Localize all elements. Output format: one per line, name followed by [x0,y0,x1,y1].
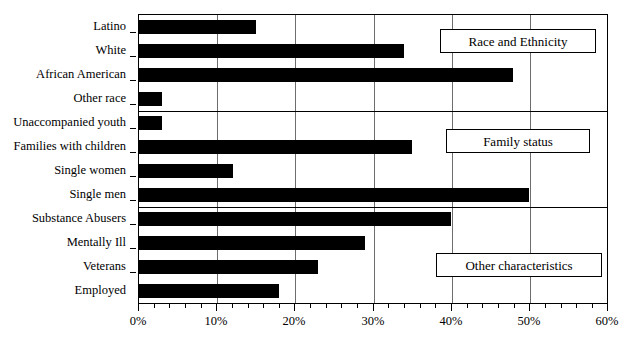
y-label-other-race: Other race [0,91,126,105]
bar-substance-abusers [139,212,451,226]
x-tick-minor [467,304,468,308]
x-tick-label-60: 60% [582,314,632,329]
bar-single-men [139,188,529,202]
x-tick-minor [232,304,233,308]
y-tick [130,128,136,129]
x-tick-minor [435,304,436,308]
x-tick-label-40: 40% [426,314,476,329]
y-label-white: White [0,43,126,57]
bar-employed [139,284,279,298]
y-tick [130,224,136,225]
x-tick-major [529,304,530,311]
x-tick-minor [310,304,311,308]
y-label-single-women: Single women [0,163,126,177]
x-tick-major [216,304,217,311]
annotation-box-family-status: Family status [446,129,590,153]
x-tick-major [607,304,608,311]
x-tick-minor [545,304,546,308]
bar-unaccompanied-youth [139,116,162,130]
annotation-box-other-characteristics: Other characteristics [436,253,602,277]
x-tick-minor [498,304,499,308]
bar-latino [139,20,256,34]
x-tick-major [138,304,139,311]
bar-chart: Latino White African American Other race… [0,0,636,342]
x-tick-minor [341,304,342,308]
x-tick-minor [248,304,249,308]
x-tick-minor [388,304,389,308]
x-tick-minor [357,304,358,308]
y-tick [130,32,136,33]
bar-white [139,44,404,58]
x-tick-label-10: 10% [191,314,241,329]
x-tick-minor [263,304,264,308]
y-label-veterans: Veterans [0,259,126,273]
y-tick [130,104,136,105]
y-label-mentally-ill: Mentally Ill [0,235,126,249]
x-axis: 0% 10% 20% 30% 40% 50% 60% [138,304,608,342]
y-label-single-men: Single men [0,187,126,201]
x-tick-minor [561,304,562,308]
x-tick-minor [169,304,170,308]
x-tick-major [373,304,374,311]
y-label-families-with-children: Families with children [0,139,126,153]
x-tick-minor [201,304,202,308]
x-tick-minor [185,304,186,308]
x-tick-label-20: 20% [269,314,319,329]
y-tick [130,248,136,249]
x-tick-minor [420,304,421,308]
y-label-latino: Latino [0,19,126,33]
x-tick-minor [482,304,483,308]
x-tick-minor [326,304,327,308]
x-tick-minor [404,304,405,308]
y-axis-labels: Latino White African American Other race… [0,14,134,304]
section-divider-race-family [139,111,607,112]
x-tick-major [294,304,295,311]
y-label-substance-abusers: Substance Abusers [0,211,126,225]
y-tick [130,176,136,177]
section-divider-family-other [139,207,607,208]
bar-other-race [139,92,162,106]
bar-mentally-ill [139,236,365,250]
x-tick-label-50: 50% [504,314,554,329]
bar-african-american [139,68,513,82]
y-label-unaccompanied-youth: Unaccompanied youth [0,115,126,129]
x-tick-minor [154,304,155,308]
x-tick-label-30: 30% [348,314,398,329]
gridline-30 [374,15,375,303]
bar-veterans [139,260,318,274]
x-tick-minor [514,304,515,308]
y-tick [130,80,136,81]
y-tick [130,56,136,57]
annotation-box-race-and-ethnicity: Race and Ethnicity [440,29,596,53]
x-tick-minor [279,304,280,308]
bar-families-with-children [139,140,412,154]
y-label-african-american: African American [0,67,126,81]
y-tick [130,272,136,273]
y-tick [130,200,136,201]
bar-single-women [139,164,233,178]
x-tick-major [451,304,452,311]
y-tick [130,152,136,153]
x-tick-minor [576,304,577,308]
x-tick-label-0: 0% [113,314,163,329]
x-tick-minor [592,304,593,308]
y-label-employed: Employed [0,283,126,297]
